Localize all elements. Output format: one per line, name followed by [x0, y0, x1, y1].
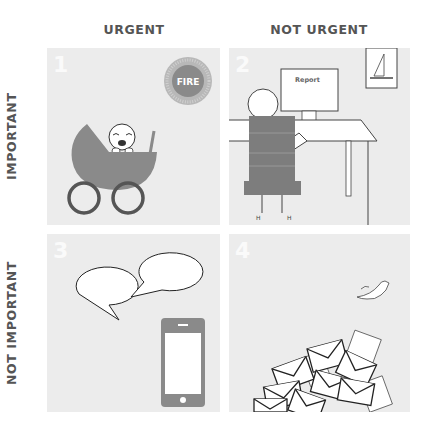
quadrant-not-urgent-not-important: 4 [229, 234, 410, 412]
svg-text:H: H [256, 214, 261, 221]
bird-icon [357, 281, 389, 299]
column-header-not-urgent: NOT URGENT [229, 22, 409, 37]
quadrant-number: 4 [235, 238, 250, 263]
quadrant-urgent-not-important: 3 [47, 234, 220, 412]
quadrant-number: 1 [53, 52, 68, 77]
quadrant-urgent-important: FIRE 1 [47, 48, 220, 225]
svg-text:Report: Report [295, 76, 320, 84]
desk-worker-illustration: Report H H [229, 48, 410, 225]
row-header-important: IMPORTANT [4, 48, 26, 225]
sailboat-picture-icon [366, 48, 397, 88]
quadrant-not-urgent-important: Report H H 2 [229, 48, 410, 225]
quadrant-number: 2 [235, 52, 250, 77]
stroller-illustration: FIRE [47, 48, 220, 225]
column-header-urgent: URGENT [44, 22, 224, 37]
row-header-not-important: NOT IMPORTANT [4, 234, 26, 412]
svg-text:H: H [287, 214, 292, 221]
chat-illustration [47, 234, 220, 412]
smartphone-icon [161, 318, 205, 407]
envelope-icon [254, 330, 392, 412]
fire-badge-icon: FIRE [164, 57, 212, 105]
envelope-pile-illustration [229, 234, 410, 412]
svg-text:FIRE: FIRE [177, 77, 200, 87]
computer-monitor-icon: Report [281, 69, 338, 121]
baby-icon [109, 124, 135, 154]
speech-bubble-icon [76, 253, 203, 320]
quadrant-number: 3 [53, 238, 68, 263]
